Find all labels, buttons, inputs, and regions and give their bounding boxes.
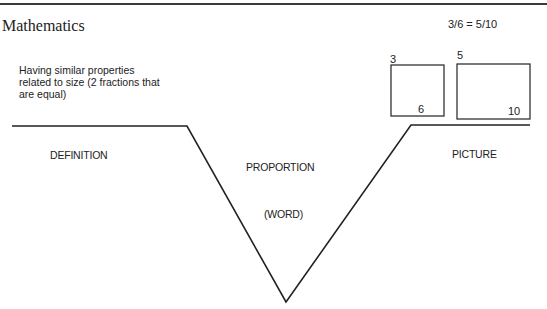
box2-top-label: 5 [457,49,463,61]
word-caption: (WORD) [264,208,303,220]
box2-bottom-label: 10 [508,105,520,117]
definition-heading: DEFINITION [50,149,108,161]
box1-top-label: 3 [390,53,396,65]
word-term: PROPORTION [246,161,314,173]
worksheet-page: Mathematics Having similar properties re… [0,0,547,309]
picture-heading: PICTURE [452,148,497,160]
box1-bottom-label: 6 [418,103,424,115]
